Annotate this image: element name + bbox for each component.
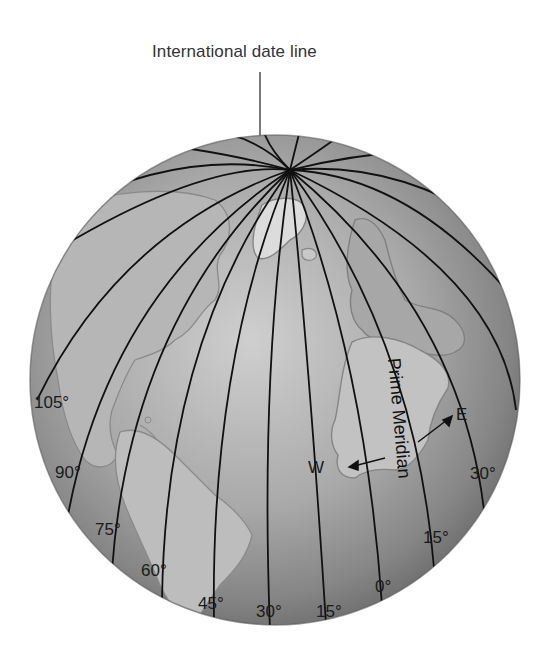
- label-30w: 30°: [256, 603, 282, 620]
- label-105w: 105°: [34, 394, 69, 411]
- label-15e: 15°: [423, 529, 449, 546]
- label-30e: 30°: [470, 465, 496, 482]
- label-60w: 60°: [141, 562, 167, 579]
- globe-diagram: International date line: [0, 0, 550, 657]
- label-75w: 75°: [95, 521, 121, 538]
- west-label: W: [308, 459, 324, 476]
- label-45w: 45°: [198, 595, 224, 612]
- globe-graphic: [0, 0, 550, 657]
- label-90w: 90°: [55, 464, 81, 481]
- label-0: 0°: [375, 578, 391, 595]
- east-label: E: [456, 406, 467, 423]
- label-15w: 15°: [316, 603, 342, 620]
